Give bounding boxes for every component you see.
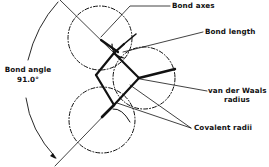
bond-left-to-top <box>96 53 114 75</box>
leader-vdw-radius <box>140 79 207 91</box>
bond-right-ext <box>139 69 175 78</box>
bond-angle-arc-upper <box>28 2 58 60</box>
bond-angle-arc-lower <box>26 98 56 158</box>
bond-ul-to-top <box>101 40 118 52</box>
vdw-circle-right <box>113 47 175 109</box>
label-covalent-radii: Covalent radii <box>194 124 252 132</box>
bond-left-to-bottom <box>96 75 114 105</box>
label-bond-axes: Bond axes <box>172 2 215 10</box>
bond-axis-upper <box>60 0 114 53</box>
label-vdw-radius-line2: radius <box>208 96 266 104</box>
leader-covalent-2 <box>130 85 191 128</box>
bond-angle-arrowhead <box>50 153 56 159</box>
bond-bottom-ext <box>102 105 114 117</box>
leader-covalent-1 <box>117 103 191 128</box>
vdw-circle-lower-left <box>69 87 135 153</box>
leader-bond-axes <box>101 6 170 37</box>
angle-mark-bottom <box>113 109 130 122</box>
label-bond-angle: Bond angle <box>3 66 53 74</box>
label-vdw-radius-line1: van der Waals <box>208 87 267 95</box>
label-bond-angle-value: 91.0° <box>3 76 53 84</box>
label-bond-length: Bond length <box>205 28 255 36</box>
bond-upper-ext-2 <box>124 34 136 44</box>
